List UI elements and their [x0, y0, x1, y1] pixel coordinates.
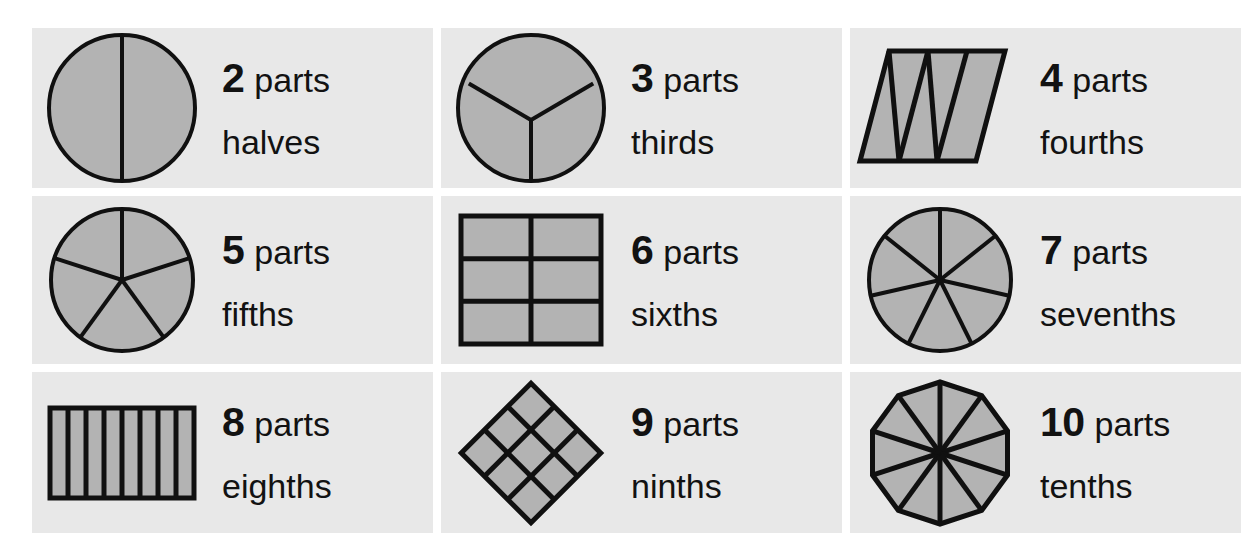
- fraction-label-fifths: 5 parts fifths: [212, 230, 433, 331]
- parts-word: parts: [663, 407, 739, 441]
- fraction-label-sevenths: 7 parts sevenths: [1030, 230, 1241, 331]
- fraction-name: halves: [222, 125, 433, 159]
- shape-square-sixths-grid: [441, 196, 621, 364]
- part-count: 3: [631, 58, 653, 99]
- part-count: 2: [222, 58, 244, 99]
- shape-decagon-tenths: [850, 372, 1030, 533]
- fraction-panel-fifths: 5 parts fifths: [32, 196, 433, 364]
- parts-word: parts: [663, 235, 739, 269]
- fraction-name: sixths: [631, 297, 842, 331]
- shape-diamond-ninths-grid: [441, 372, 621, 533]
- fraction-name: sevenths: [1040, 297, 1241, 331]
- count-line: 7 parts: [1040, 230, 1241, 271]
- fraction-panel-sixths: 6 parts sixths: [441, 196, 842, 364]
- count-line: 4 parts: [1040, 58, 1241, 99]
- count-line: 8 parts: [222, 402, 433, 443]
- parts-word: parts: [1072, 63, 1148, 97]
- fraction-name: fifths: [222, 297, 433, 331]
- fractions-poster: 2 parts halves 3 parts: [0, 0, 1253, 560]
- fraction-name: tenths: [1040, 469, 1241, 503]
- part-count: 10: [1040, 402, 1085, 443]
- parts-word: parts: [663, 63, 739, 97]
- fraction-panel-fourths: 4 parts fourths: [850, 28, 1241, 188]
- parts-word: parts: [254, 407, 330, 441]
- fractions-grid: 2 parts halves 3 parts: [32, 28, 1225, 525]
- fraction-name: fourths: [1040, 125, 1241, 159]
- fraction-label-tenths: 10 parts tenths: [1030, 402, 1241, 503]
- count-line: 3 parts: [631, 58, 842, 99]
- fraction-name: thirds: [631, 125, 842, 159]
- fraction-name: eighths: [222, 469, 433, 503]
- shape-circle-thirds-y: [441, 28, 621, 188]
- fraction-panel-thirds: 3 parts thirds: [441, 28, 842, 188]
- part-count: 7: [1040, 230, 1062, 271]
- parts-word: parts: [254, 235, 330, 269]
- count-line: 10 parts: [1040, 402, 1241, 443]
- parts-word: parts: [1072, 235, 1148, 269]
- part-count: 6: [631, 230, 653, 271]
- count-line: 5 parts: [222, 230, 433, 271]
- fraction-panel-ninths: 9 parts ninths: [441, 372, 842, 533]
- shape-circle-sevenths: [850, 196, 1030, 364]
- part-count: 5: [222, 230, 244, 271]
- parts-word: parts: [254, 63, 330, 97]
- fraction-label-ninths: 9 parts ninths: [621, 402, 842, 503]
- fraction-label-halves: 2 parts halves: [212, 58, 433, 159]
- shape-rectangle-eighths-strips: [32, 372, 212, 533]
- fraction-panel-tenths: 10 parts tenths: [850, 372, 1241, 533]
- fraction-name: ninths: [631, 469, 842, 503]
- fraction-label-fourths: 4 parts fourths: [1030, 58, 1241, 159]
- fraction-panel-eighths: 8 parts eighths: [32, 372, 433, 533]
- shape-circle-fifths: [32, 196, 212, 364]
- count-line: 2 parts: [222, 58, 433, 99]
- part-count: 9: [631, 402, 653, 443]
- shape-circle-halved-vertical: [32, 28, 212, 188]
- count-line: 6 parts: [631, 230, 842, 271]
- shape-parallelogram-fourths: [850, 28, 1030, 188]
- fraction-panel-sevenths: 7 parts sevenths: [850, 196, 1241, 364]
- fraction-panel-halves: 2 parts halves: [32, 28, 433, 188]
- fraction-label-thirds: 3 parts thirds: [621, 58, 842, 159]
- parts-word: parts: [1095, 407, 1171, 441]
- fraction-label-sixths: 6 parts sixths: [621, 230, 842, 331]
- part-count: 4: [1040, 58, 1062, 99]
- fraction-label-eighths: 8 parts eighths: [212, 402, 433, 503]
- count-line: 9 parts: [631, 402, 842, 443]
- part-count: 8: [222, 402, 244, 443]
